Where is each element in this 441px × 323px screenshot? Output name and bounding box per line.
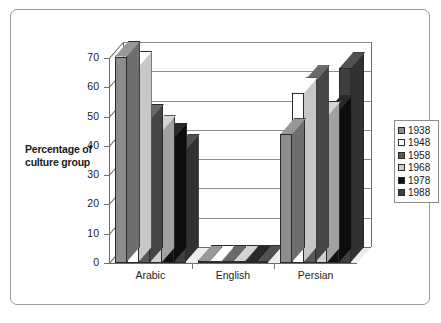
bar-front-face xyxy=(115,57,127,263)
gridline-60 xyxy=(123,71,371,72)
y-tick-label-60: 60 xyxy=(77,80,99,92)
legend-label: 1978 xyxy=(408,175,430,186)
y-tick-label-10: 10 xyxy=(77,227,99,239)
x-axis-label-english: English xyxy=(192,269,275,281)
legend-swatch-icon xyxy=(398,189,405,196)
chart-legend: 193819481958196819781988 xyxy=(394,120,439,203)
bar-side-face xyxy=(291,118,305,263)
y-tick-label-30: 30 xyxy=(77,168,99,180)
legend-label: 1938 xyxy=(408,125,430,136)
legend-item-1988[interactable]: 1988 xyxy=(398,187,435,200)
legend-swatch-icon xyxy=(398,164,405,171)
bar-persian-1938 xyxy=(280,118,306,263)
legend-swatch-icon xyxy=(398,152,405,159)
legend-swatch-icon xyxy=(398,177,405,184)
legend-item-1978[interactable]: 1978 xyxy=(398,174,435,187)
legend-item-1968[interactable]: 1968 xyxy=(398,162,435,175)
y-tick-label-70: 70 xyxy=(77,51,99,63)
gridline-70 xyxy=(123,42,371,43)
y-tick-label-0: 0 xyxy=(77,256,99,268)
legend-label: 1948 xyxy=(408,137,430,148)
legend-item-1938[interactable]: 1938 xyxy=(398,124,435,137)
plot-area: 010203040506070ArabicEnglishPersian xyxy=(11,10,431,306)
legend-label: 1988 xyxy=(408,187,430,198)
back-wall-right-edge xyxy=(371,42,372,247)
legend-label: 1968 xyxy=(408,162,430,173)
legend-label: 1958 xyxy=(408,150,430,161)
x-axis-line xyxy=(109,263,357,264)
bar-english-1938 xyxy=(198,245,224,263)
legend-swatch-icon xyxy=(398,139,405,146)
y-tick-label-20: 20 xyxy=(77,197,99,209)
x-axis-label-arabic: Arabic xyxy=(109,269,192,281)
y-tick-label-50: 50 xyxy=(77,110,99,122)
legend-item-1948[interactable]: 1948 xyxy=(398,137,435,150)
bar-top-face xyxy=(198,245,224,262)
bar-front-face xyxy=(280,134,292,263)
legend-item-1958[interactable]: 1958 xyxy=(398,149,435,162)
legend-swatch-icon xyxy=(398,127,405,134)
bar-arabic-1938 xyxy=(115,41,141,263)
chart-frame: Percentage of culture group 010203040506… xyxy=(10,9,430,305)
x-axis-label-persian: Persian xyxy=(274,269,357,281)
bar-front-face xyxy=(198,261,210,263)
bar-side-face xyxy=(126,41,140,263)
y-axis-line xyxy=(109,58,110,264)
y-tick-label-40: 40 xyxy=(77,139,99,151)
